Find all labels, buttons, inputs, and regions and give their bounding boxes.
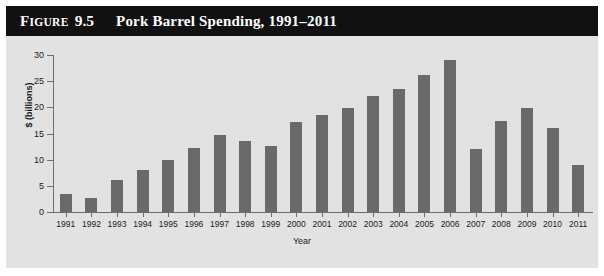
x-axis-tick [373, 213, 374, 217]
y-axis-tick-label-wrap: 5 [12, 186, 44, 187]
figure-title-bar: FIGURE 9.5 Pork Barrel Spending, 1991–20… [6, 6, 598, 36]
x-axis-tick [399, 213, 400, 217]
x-axis-tick [245, 213, 246, 217]
bar [162, 160, 174, 212]
x-axis-line [53, 212, 593, 213]
x-axis-tick [168, 213, 169, 217]
y-axis-tick-label: 25 [14, 76, 44, 86]
bar [470, 149, 482, 212]
y-axis-tick-label: 30 [14, 50, 44, 60]
x-axis-tick-label: 2011 [561, 219, 595, 229]
bar [495, 121, 507, 212]
y-axis-tick-label-wrap: 30 [12, 55, 44, 56]
figure-title: Pork Barrel Spending, 1991–2011 [116, 13, 337, 30]
y-axis-tick-label-wrap: 15 [12, 134, 44, 135]
bar [290, 122, 302, 212]
x-axis-tick [322, 213, 323, 217]
x-axis-title: Year [6, 236, 598, 246]
y-axis-tick-label: 5 [14, 181, 44, 191]
bar [60, 194, 72, 212]
chart-panel: $ (billions) 051015202530 19911992199319… [6, 36, 598, 268]
y-axis-tick-label-wrap: 10 [12, 160, 44, 161]
x-axis-tick [501, 213, 502, 217]
figure-label: FIGURE [20, 13, 69, 30]
figure-number: 9.5 [75, 12, 94, 30]
x-axis-tick [91, 213, 92, 217]
x-axis-tick [424, 213, 425, 217]
bar [316, 115, 328, 212]
y-axis-tick-label: 20 [14, 102, 44, 112]
bar [367, 96, 379, 212]
bar [265, 146, 277, 212]
x-axis-tick [450, 213, 451, 217]
bar [444, 60, 456, 212]
bar [85, 198, 97, 212]
bar [547, 128, 559, 212]
x-axis-tick [578, 213, 579, 217]
x-axis-tick [143, 213, 144, 217]
figure-container: FIGURE 9.5 Pork Barrel Spending, 1991–20… [0, 0, 604, 276]
bar [239, 141, 251, 212]
x-axis-tick [553, 213, 554, 217]
x-axis-tick [117, 213, 118, 217]
x-axis-tick [296, 213, 297, 217]
y-axis-tick-label: 15 [14, 129, 44, 139]
x-axis-tick [194, 213, 195, 217]
x-axis-tick [348, 213, 349, 217]
x-axis-tick [66, 213, 67, 217]
bar [342, 108, 354, 212]
x-axis-tick [271, 213, 272, 217]
x-axis-tick [527, 213, 528, 217]
bar [111, 180, 123, 212]
y-axis-tick-label-wrap: 25 [12, 81, 44, 82]
y-axis-tick-label-wrap: 0 [12, 212, 44, 213]
y-axis-tick-label-wrap: 20 [12, 107, 44, 108]
y-axis-tick [47, 212, 53, 213]
bar [418, 75, 430, 212]
bar [137, 170, 149, 212]
bar [188, 148, 200, 212]
bar [214, 135, 226, 212]
figure-label-rest: IGURE [29, 16, 68, 28]
plot-area [53, 55, 591, 212]
x-axis-tick [476, 213, 477, 217]
bar [572, 165, 584, 212]
x-axis-tick [220, 213, 221, 217]
y-axis-tick-label: 0 [14, 207, 44, 217]
y-axis-tick-label: 10 [14, 155, 44, 165]
bar [521, 108, 533, 212]
bar [393, 89, 405, 213]
